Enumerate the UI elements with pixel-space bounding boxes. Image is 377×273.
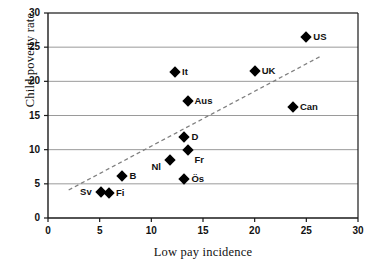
x-tick-label-0: 0 [36,225,60,236]
data-point-label-uk: UK [262,65,276,76]
trendline [69,57,320,190]
data-point-label-ös: Ös [191,173,204,184]
y-tick-label-5: 5 [16,178,40,189]
y-tick-label-30: 30 [16,7,40,18]
y-tick-label-20: 20 [16,75,40,86]
y-tick-label-15: 15 [16,110,40,121]
x-tick-label-5: 5 [88,225,112,236]
scatter-chart-figure: Child poverty rate Low pay incidence 051… [0,0,377,273]
data-point-label-nl: Nl [151,161,161,172]
y-tick-label-10: 10 [16,144,40,155]
trendline-group [69,57,320,190]
x-tick-label-10: 10 [139,225,163,236]
data-point-label-sv: Sv [80,186,92,197]
x-tick-label-25: 25 [294,225,318,236]
x-tick-label-15: 15 [191,225,215,236]
data-point-label-fr: Fr [195,154,205,165]
y-tick-label-0: 0 [16,212,40,223]
x-tick-label-30: 30 [346,225,370,236]
y-tick-label-25: 25 [16,41,40,52]
data-point-label-it: It [182,66,188,77]
data-point-label-aus: Aus [195,95,213,106]
data-point-label-d: D [191,131,198,142]
data-point-label-can: Can [300,101,318,112]
data-point-label-b: B [129,170,136,181]
x-tick-label-20: 20 [243,225,267,236]
data-point-label-us: US [313,31,326,42]
data-point-label-fi: Fi [116,187,124,198]
